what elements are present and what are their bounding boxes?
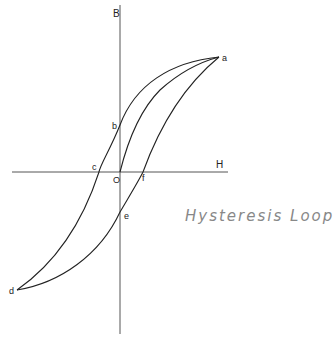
point-a-label: a (222, 53, 227, 63)
upper-branch-curve (17, 57, 219, 290)
b-axis-label: B (113, 8, 120, 19)
point-b-label: b (112, 121, 117, 131)
point-f-label: f (142, 173, 145, 183)
h-axis-label: H (216, 159, 223, 170)
point-c-label: c (92, 162, 97, 172)
diagram-title: Hysteresis Loop (185, 207, 333, 225)
hysteresis-diagram: B H O a b c d e f Hysteresis Loop (0, 0, 333, 338)
point-d-label: d (9, 286, 14, 296)
lower-branch-curve (17, 57, 219, 290)
origin-label: O (113, 175, 120, 185)
diagram-canvas: B H O a b c d e f Hysteresis Loop (0, 0, 333, 338)
point-e-label: e (124, 211, 129, 221)
